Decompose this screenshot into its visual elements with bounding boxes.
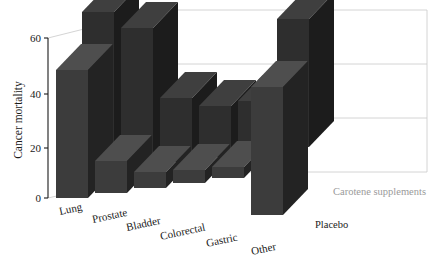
cat-label-other: Other — [250, 240, 277, 257]
y-tick-label-0: 0 — [36, 192, 42, 204]
chart-container: 60 40 20 0 Cancer mortality Lung Prostat… — [0, 0, 438, 261]
bar-chart-3d: 60 40 20 0 Cancer mortality Lung Prostat… — [0, 0, 438, 261]
y-axis — [44, 38, 48, 198]
y-axis-title: Cancer mortality — [12, 81, 25, 159]
cat-label-prostate: Prostate — [91, 206, 128, 225]
cat-label-gastric: Gastric — [205, 231, 239, 249]
series-axis-labels: Carotene supplements Placebo — [315, 186, 426, 230]
cat-label-lung: Lung — [58, 200, 84, 217]
bar-other-placebo — [251, 61, 308, 215]
y-tick-label-60: 60 — [30, 32, 42, 44]
series-label-placebo: Placebo — [315, 219, 348, 230]
cat-label-bladder: Bladder — [125, 214, 162, 233]
y-tick-label-20: 20 — [30, 142, 42, 154]
cat-label-colorectal: Colorectal — [159, 221, 206, 242]
category-axis-labels: Lung Prostate Bladder Colorectal Gastric… — [58, 200, 277, 257]
series-label-carotene-supplements: Carotene supplements — [333, 186, 426, 197]
y-tick-label-40: 40 — [30, 88, 42, 100]
